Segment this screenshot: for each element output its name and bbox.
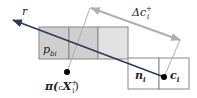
ray-label: r	[22, 6, 27, 17]
delta-sup: +	[146, 5, 152, 13]
pbi-text: p	[43, 43, 50, 56]
proj-pi: π(	[45, 80, 58, 93]
pbi-label: pbi	[43, 44, 57, 58]
projection-label: π(cX+i)	[45, 80, 79, 95]
ci-label: ci	[170, 70, 179, 83]
pbi-sub: bi	[50, 50, 57, 58]
cell-center-point	[161, 74, 167, 80]
ni-label: ni	[135, 70, 146, 83]
projection-point	[64, 69, 70, 75]
ci-text: c	[170, 69, 177, 82]
ni-sub: i	[143, 75, 146, 84]
proj-close: )	[74, 80, 78, 93]
delta-label: Δc+i	[132, 6, 149, 21]
ci-sub: i	[177, 75, 180, 84]
delta-sub: i	[147, 13, 149, 21]
diagram-graphics	[0, 0, 197, 98]
diagram: r Δc+i pbi π(cX+i) ni ci	[0, 0, 197, 98]
delta-text: Δc	[132, 6, 146, 19]
proj-x: X	[63, 80, 72, 93]
ni-text: n	[135, 69, 143, 82]
